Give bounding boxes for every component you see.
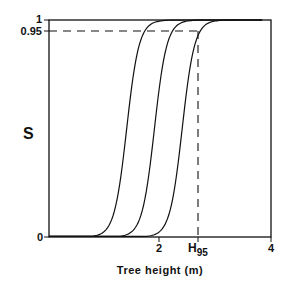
y-tick-label-1: 1 [36, 13, 42, 25]
curves [49, 20, 262, 236]
x-tick-label-h95: H95 [188, 241, 208, 258]
y-axis-label: S [23, 125, 34, 142]
x-axis-label: Tree height (m) [117, 264, 203, 276]
h95-subscript: 95 [197, 247, 209, 258]
x-tick-label-4: 4 [268, 242, 275, 254]
series-curve-1 [49, 20, 262, 236]
x-tick-label-2: 2 [156, 242, 162, 254]
series-curve-3 [49, 20, 262, 236]
h95-main: H [188, 241, 197, 255]
chart: 1 0.95 0 S 2 H95 4 Tree height (m) [0, 0, 283, 285]
y-tick-label-095: 0.95 [21, 25, 42, 37]
series-curve-2 [49, 20, 262, 236]
y-tick-label-0: 0 [37, 231, 43, 243]
plot-frame [49, 20, 271, 237]
